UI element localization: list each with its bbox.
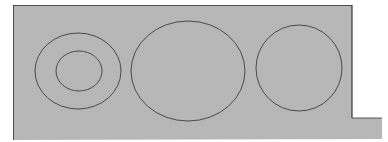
diagram-canvas — [0, 0, 388, 142]
gray-plate — [13, 5, 382, 140]
